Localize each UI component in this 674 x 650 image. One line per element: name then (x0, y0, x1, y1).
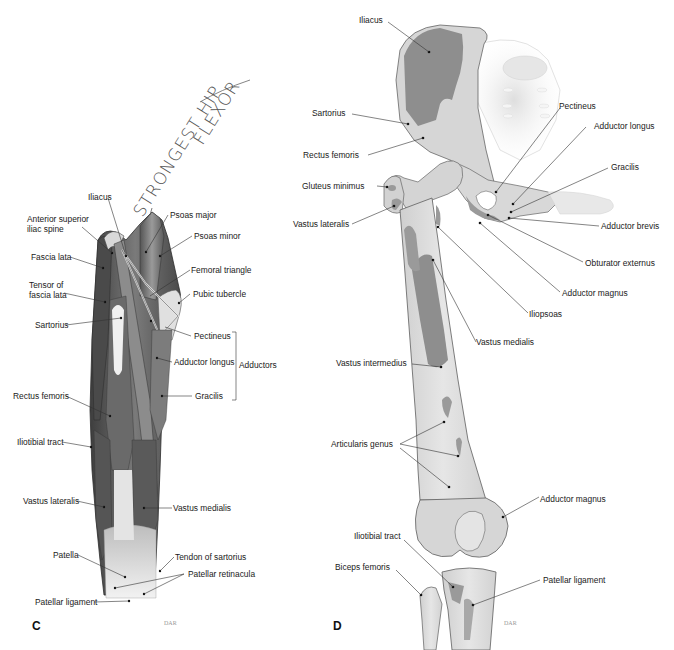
label-d-sartorius: Sartorius (312, 108, 346, 118)
label-d-rectus-femoris: Rectus femoris (303, 150, 359, 160)
panel-d-letter: D (333, 619, 342, 633)
label-c-pubic-tubercle: Pubic tubercle (193, 289, 246, 299)
label-d-pectineus: Pectineus (559, 101, 596, 111)
label-c-adductor-longus: Adductor longus (174, 357, 235, 367)
label-d-biceps-femoris: Biceps femoris (335, 562, 390, 572)
label-c-rectus-femoris: Rectus femoris (13, 391, 69, 401)
label-c-iliotibial-tract: Iliotibial tract (17, 437, 64, 447)
panel-c-credit: DAR (164, 620, 177, 626)
label-d-adductor-brevis: Adductor brevis (601, 221, 659, 231)
label-c-vastus-lateralis: Vastus lateralis (23, 496, 79, 506)
label-c-vastus-medialis: Vastus medialis (173, 503, 231, 513)
label-d-adductor-magnus-lower: Adductor magnus (540, 494, 606, 504)
label-c-adductors-group: Adductors (239, 360, 277, 370)
label-c-asis: Anterior superior iliac spine (27, 214, 89, 234)
label-c-tendon-sartorius: Tendon of sartorius (175, 552, 246, 562)
label-d-patellar-ligament: Patellar ligament (543, 575, 605, 585)
label-d-obturator-externus: Obturator externus (585, 258, 655, 268)
label-c-patellar-retinacula: Patellar retinacula (188, 569, 255, 579)
figure: STRONGEST HIP FLEXOR Iliacus Anterior su… (0, 0, 674, 650)
panel-d-credit: DAR (504, 620, 517, 626)
label-c-gracilis: Gracilis (195, 391, 223, 401)
label-d-adductor-longus: Adductor longus (594, 121, 655, 131)
label-d-iliotibial-tract: Iliotibial tract (354, 531, 401, 541)
label-d-vastus-lateralis: Vastus lateralis (293, 219, 349, 229)
label-c-femoral-triangle: Femoral triangle (191, 265, 252, 275)
label-d-gracilis: Gracilis (611, 162, 639, 172)
panel-c-letter: C (32, 619, 41, 633)
label-c-psoas-minor: Psoas minor (194, 231, 241, 241)
label-c-fascia-lata: Fascia lata (31, 252, 72, 262)
label-c-patellar-ligament: Patellar ligament (35, 597, 97, 607)
label-c-psoas-major: Psoas major (170, 210, 217, 220)
label-d-adductor-magnus-upper: Adductor magnus (562, 288, 628, 298)
label-c-pectineus: Pectineus (194, 331, 231, 341)
label-d-gluteus-minimus: Gluteus minimus (302, 181, 364, 191)
label-c-sartorius: Sartorius (35, 320, 69, 330)
label-c-patella: Patella (53, 550, 79, 560)
label-d-articularis-genus: Articularis genus (331, 439, 393, 449)
panel-c-illustration (0, 0, 674, 650)
label-d-iliacus: Iliacus (359, 15, 383, 25)
label-d-iliopsoas: Iliopsoas (529, 309, 562, 319)
label-d-vastus-intermedius: Vastus intermedius (336, 358, 407, 368)
label-c-tensor-fascia-lata: Tensor of fascia lata (29, 280, 67, 300)
label-d-vastus-medialis: Vastus medialis (476, 337, 534, 347)
label-c-iliacus: Iliacus (88, 192, 112, 202)
